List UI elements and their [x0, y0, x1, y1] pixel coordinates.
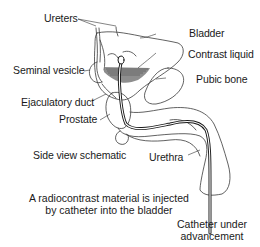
label-bladder: Bladder — [189, 28, 225, 39]
caption: A radiocontrast material is injected by … — [14, 192, 204, 216]
label-side-view: Side view schematic — [33, 150, 126, 161]
label-urethra: Urethra — [149, 152, 183, 163]
label-catheter: Catheter under advancement — [172, 218, 252, 242]
label-contrast-liquid: Contrast liquid — [188, 49, 254, 60]
label-prostate: Prostate — [59, 114, 97, 125]
caption-line-2: by catheter into the bladder — [14, 204, 204, 216]
ureter-left — [96, 28, 102, 82]
label-seminal-vesicle: Seminal vesicle — [13, 65, 84, 76]
label-ejaculatory-duct: Ejaculatory duct — [21, 97, 94, 108]
label-ureters: Ureters — [44, 13, 78, 24]
label-catheter-line-2: advancement — [172, 230, 252, 242]
caption-line-1: A radiocontrast material is injected — [14, 192, 204, 204]
label-catheter-line-1: Catheter under — [172, 218, 252, 230]
ureter-right — [116, 27, 118, 36]
bladder-shape — [94, 32, 183, 100]
label-pubic-bone: Pubic bone — [196, 74, 248, 85]
